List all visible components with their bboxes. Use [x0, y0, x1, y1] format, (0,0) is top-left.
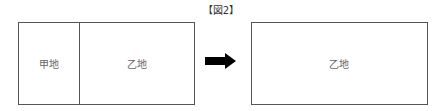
figure-title: 【図2】 [0, 2, 442, 17]
right-arrow-icon [205, 53, 237, 69]
parcel-boundary-line [79, 22, 80, 105]
parcel-b-label: 乙地 [127, 56, 147, 71]
merged-parcel-label: 乙地 [329, 56, 349, 71]
parcel-a-label: 甲地 [39, 56, 59, 71]
